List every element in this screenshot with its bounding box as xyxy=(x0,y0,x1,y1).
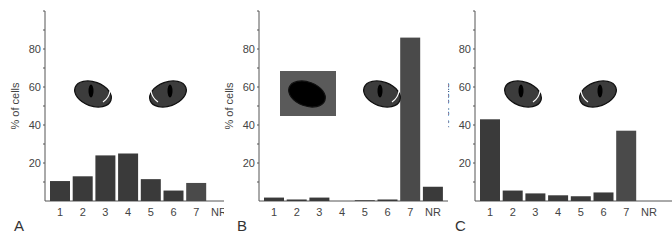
bar-5 xyxy=(355,200,375,201)
panel-b: 20406080% of cells1234567NR xyxy=(224,0,448,240)
panel-label-c: C xyxy=(455,217,466,234)
y-tick-label: 60 xyxy=(459,81,471,93)
panel-a: 20406080% of cells1234567NR xyxy=(0,0,224,240)
bar-5 xyxy=(571,196,591,201)
y-tick-label: 80 xyxy=(29,43,41,55)
x-tick-label: 1 xyxy=(487,206,493,218)
y-tick-label: 40 xyxy=(243,119,255,131)
x-tick-label: 4 xyxy=(555,206,561,218)
bar-4 xyxy=(118,154,138,202)
x-tick-label: NR xyxy=(641,206,657,218)
x-tick-label: 3 xyxy=(532,206,538,218)
bar-3 xyxy=(525,193,545,201)
x-tick-label: NR xyxy=(211,206,224,218)
bar-4 xyxy=(548,195,568,201)
bar-2 xyxy=(73,176,93,201)
y-tick-label: 20 xyxy=(29,157,41,169)
y-tick-label: 20 xyxy=(459,157,471,169)
cat-eye-right-icon xyxy=(576,76,620,112)
x-tick-label: 2 xyxy=(294,206,300,218)
x-tick-label: 5 xyxy=(362,206,368,218)
bar-7 xyxy=(186,183,206,201)
y-axis-label: % of cells xyxy=(448,82,451,130)
x-tick-label: 4 xyxy=(125,206,131,218)
panel-label-b: B xyxy=(237,217,247,234)
x-tick-label: 3 xyxy=(316,206,322,218)
y-tick-label: 80 xyxy=(459,43,471,55)
cat-eye-left-icon xyxy=(71,76,115,112)
cat-eye-right-icon xyxy=(360,76,404,112)
bar-1 xyxy=(50,181,70,201)
panel-label-a: A xyxy=(14,217,24,234)
bar-2 xyxy=(503,191,523,201)
bar-5 xyxy=(141,179,161,201)
bar-2 xyxy=(287,199,307,201)
x-tick-label: 6 xyxy=(384,206,390,218)
bar-nr xyxy=(423,187,443,201)
x-tick-label: 4 xyxy=(339,206,345,218)
y-tick-label: 40 xyxy=(459,119,471,131)
cat-eye-right-icon xyxy=(146,76,190,112)
bar-6 xyxy=(378,199,398,201)
bar-3 xyxy=(95,155,115,201)
bar-7 xyxy=(616,131,636,201)
y-tick-label: 60 xyxy=(29,81,41,93)
x-tick-label: 1 xyxy=(57,206,63,218)
bar-6 xyxy=(594,192,614,201)
y-tick-label: 60 xyxy=(243,81,255,93)
x-tick-label: 5 xyxy=(148,206,154,218)
bar-1 xyxy=(264,198,284,201)
x-tick-label: 7 xyxy=(623,206,629,218)
x-tick-label: 7 xyxy=(407,206,413,218)
x-tick-label: 6 xyxy=(170,206,176,218)
x-tick-label: 1 xyxy=(271,206,277,218)
cat-eye-left-icon xyxy=(501,76,545,112)
x-tick-label: 2 xyxy=(80,206,86,218)
y-axis-label: % of cells xyxy=(9,82,21,130)
y-axis-label: % of cells xyxy=(224,82,235,130)
y-tick-label: 40 xyxy=(29,119,41,131)
y-tick-label: 20 xyxy=(243,157,255,169)
bar-7 xyxy=(400,38,420,201)
y-tick-label: 80 xyxy=(243,43,255,55)
x-tick-label: 6 xyxy=(600,206,606,218)
x-tick-label: 5 xyxy=(578,206,584,218)
x-tick-label: NR xyxy=(425,206,441,218)
panel-c: 20406080% of cells1234567NR xyxy=(448,0,672,240)
x-tick-label: 3 xyxy=(102,206,108,218)
x-tick-label: 7 xyxy=(193,206,199,218)
x-tick-label: 2 xyxy=(510,206,516,218)
bar-3 xyxy=(309,198,329,201)
bar-6 xyxy=(164,191,184,201)
bar-1 xyxy=(480,119,500,201)
